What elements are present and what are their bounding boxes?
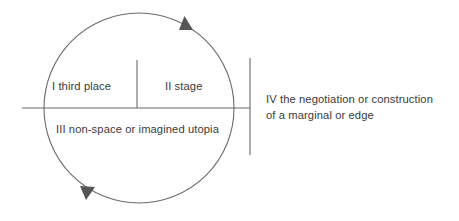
quadrant-label-iv-line-1: IV the negotiation or construction (266, 93, 433, 105)
quadrant-label-i: I third place (52, 81, 111, 92)
quadrant-label-iv: IV the negotiation or constructionof a m… (266, 92, 451, 124)
quadrant-label-ii: II stage (165, 81, 203, 92)
bottom-arrowhead-icon (80, 186, 95, 200)
quadrant-label-iv-line-2: of a marginal or edge (266, 108, 451, 124)
quadrant-label-iii: III non-space or imagined utopia (56, 124, 219, 135)
diagram-canvas: I third place II stage III non-space or … (0, 0, 459, 221)
